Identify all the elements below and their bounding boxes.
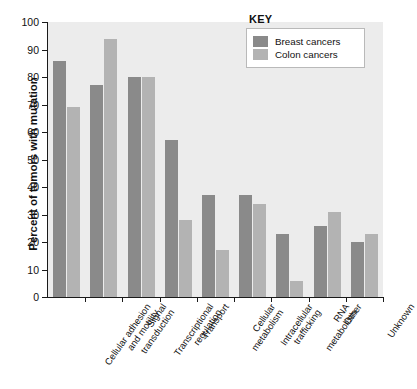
bar-colon bbox=[179, 220, 192, 297]
legend-swatch-icon bbox=[253, 49, 268, 60]
legend-title: KEY bbox=[249, 13, 272, 25]
legend-item-label: Colon cancers bbox=[275, 49, 338, 60]
bar-colon bbox=[253, 204, 266, 298]
y-axis-tick-label: 90 bbox=[27, 44, 39, 56]
x-axis-tick bbox=[85, 297, 86, 302]
bar-breast bbox=[351, 242, 364, 297]
bar-breast bbox=[202, 195, 215, 297]
bar-breast bbox=[276, 234, 289, 297]
bar-breast bbox=[53, 61, 66, 298]
y-axis-tick bbox=[42, 297, 48, 298]
bar-colon bbox=[216, 250, 229, 297]
x-axis-tick bbox=[271, 297, 272, 302]
x-axis-tick-label-line: Unknown bbox=[386, 302, 417, 340]
y-axis-tick-label: 100 bbox=[21, 16, 39, 28]
bar-breast bbox=[165, 140, 178, 297]
x-axis-tick bbox=[346, 297, 347, 302]
bar-group bbox=[202, 22, 229, 297]
legend-box: Breast cancersColon cancers bbox=[246, 28, 365, 68]
x-axis-tick bbox=[383, 297, 384, 302]
bar-colon bbox=[328, 212, 341, 297]
bar-colon bbox=[142, 77, 155, 297]
bar-breast bbox=[128, 77, 141, 297]
legend-swatch-icon bbox=[253, 36, 268, 47]
y-axis-tick-label: 10 bbox=[27, 264, 39, 276]
legend-item-label: Breast cancers bbox=[275, 36, 340, 47]
bar-breast bbox=[314, 226, 327, 298]
y-axis-tick-label: 60 bbox=[27, 126, 39, 138]
bar-group bbox=[90, 22, 117, 297]
x-axis-tick-label: Intracellulartrafficking bbox=[278, 302, 323, 354]
bar-breast bbox=[90, 85, 103, 297]
bar-group bbox=[128, 22, 155, 297]
bar-breast bbox=[239, 195, 252, 297]
x-axis-tick bbox=[122, 297, 123, 302]
y-axis-tick-label: 0 bbox=[33, 291, 39, 303]
bar-group bbox=[53, 22, 80, 297]
bar-colon bbox=[67, 107, 80, 297]
y-axis-tick-label: 30 bbox=[27, 209, 39, 221]
x-axis-tick bbox=[234, 297, 235, 302]
y-axis-tick-label: 70 bbox=[27, 99, 39, 111]
y-axis-tick-label: 20 bbox=[27, 236, 39, 248]
x-axis-tick-label: Unknown bbox=[386, 302, 417, 340]
x-axis-tick-label: Cellularmetabolism bbox=[241, 302, 286, 353]
y-axis-tick-label: 40 bbox=[27, 181, 39, 193]
bar-group bbox=[165, 22, 192, 297]
figure-caption bbox=[6, 378, 386, 389]
y-axis-tick-label: 80 bbox=[27, 71, 39, 83]
legend-item: Colon cancers bbox=[253, 49, 358, 60]
x-axis-tick bbox=[197, 297, 198, 302]
bar-colon bbox=[290, 281, 303, 298]
x-axis-tick bbox=[309, 297, 310, 302]
bar-colon bbox=[365, 234, 378, 297]
bar-colon bbox=[104, 39, 117, 298]
y-axis-tick-label: 50 bbox=[27, 154, 39, 166]
legend-item: Breast cancers bbox=[253, 36, 358, 47]
